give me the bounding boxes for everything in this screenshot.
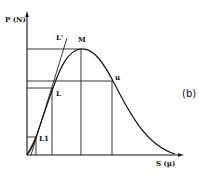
y-axis-label: P (N)	[5, 15, 26, 24]
x-axis-label: S (μ)	[156, 159, 175, 168]
point-label-u: u	[115, 73, 120, 82]
x-axis	[27, 153, 184, 157]
y-axis	[25, 11, 29, 155]
force-displacement-diagram: P (N) S (μ) L' M u L L1 (b)	[0, 0, 206, 177]
point-label-l1: L1	[39, 134, 49, 143]
point-label-m: M	[78, 35, 86, 44]
point-label-l-prime: L'	[56, 33, 63, 42]
point-label-l: L	[56, 89, 61, 98]
panel-label: (b)	[182, 88, 196, 99]
force-curve	[27, 49, 175, 155]
